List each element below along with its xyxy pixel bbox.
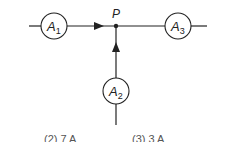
junction-label: P: [112, 7, 120, 21]
ammeter-a3-base: A: [170, 19, 180, 34]
answer-options-cropped: (2) 7 A (3) 3 A: [0, 131, 238, 142]
ammeter-a1-sub: 1: [56, 26, 61, 36]
ammeter-a1: A1: [41, 13, 67, 39]
ammeter-a2-base: A: [108, 84, 118, 99]
ammeter-a1-base: A: [46, 19, 56, 34]
option-3: (3) 3 A: [132, 133, 164, 142]
ammeter-a2: A2: [103, 78, 129, 104]
arrow-up-icon: [112, 42, 120, 52]
ammeter-a2-sub: 2: [118, 91, 123, 101]
ammeter-a3: A3: [165, 13, 191, 39]
junction-dot: [114, 24, 118, 28]
arrow-right-icon: [94, 22, 104, 30]
option-2: (2) 7 A: [44, 133, 76, 142]
ammeter-a3-sub: 3: [180, 26, 185, 36]
circuit-diagram: A1 A3 A2 P: [0, 0, 238, 142]
